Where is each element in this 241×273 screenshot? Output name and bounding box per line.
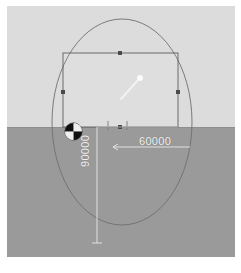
handle-right-middle[interactable]	[176, 90, 180, 94]
3d-viewport[interactable]: 60000 90000	[7, 6, 235, 257]
rotation-gizmo-icon[interactable]	[64, 122, 83, 141]
dimension-width-label[interactable]: 60000	[139, 135, 171, 147]
handle-left-middle[interactable]	[61, 90, 65, 94]
selected-rectangle[interactable]	[63, 53, 178, 127]
cad-application-window: 60000 90000	[0, 0, 241, 273]
handle-top-middle[interactable]	[118, 51, 122, 55]
geometry-overlay	[7, 6, 235, 257]
